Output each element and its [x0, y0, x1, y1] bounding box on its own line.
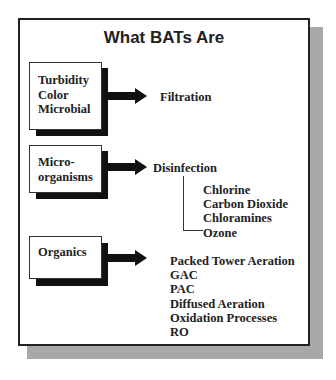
contaminant-box-microorganisms: Micro- organisms [29, 145, 102, 193]
bracket-line [183, 230, 203, 231]
organics-options: Packed Tower Aeration GAC PAC Diffused A… [170, 254, 295, 339]
option-item: Oxidation Processes [170, 311, 295, 325]
contaminant-label: Organics [38, 245, 101, 260]
option-item: GAC [170, 268, 295, 282]
option-item: Diffused Aeration [170, 297, 295, 311]
arrow-right-icon [107, 250, 149, 266]
contaminant-label: organisms [38, 170, 101, 185]
contaminant-label: Micro- [38, 155, 101, 170]
option-item: Packed Tower Aeration [170, 254, 295, 268]
option-item: RO [170, 325, 295, 339]
treatment-filtration: Filtration [160, 90, 211, 104]
contaminant-label: Color [38, 88, 101, 103]
diagram-title: What BATs Are [18, 28, 310, 48]
disinfection-options: Chlorine Carbon Dioxide Chloramines Ozon… [203, 183, 288, 240]
contaminant-box-organics: Organics [29, 236, 102, 279]
bracket-line [183, 176, 184, 230]
arrow-right-icon [107, 159, 149, 175]
treatment-disinfection: Disinfection [153, 161, 217, 175]
option-item: Carbon Dioxide [203, 197, 288, 211]
arrow-right-icon [107, 88, 149, 104]
contaminant-label: Turbidity [38, 73, 101, 88]
option-item: PAC [170, 282, 295, 296]
option-item: Ozone [203, 226, 288, 240]
contaminant-box-turbidity: Turbidity Color Microbial [29, 62, 102, 130]
contaminant-label: Microbial [38, 102, 101, 117]
option-item: Chlorine [203, 183, 288, 197]
option-item: Chloramines [203, 211, 288, 225]
